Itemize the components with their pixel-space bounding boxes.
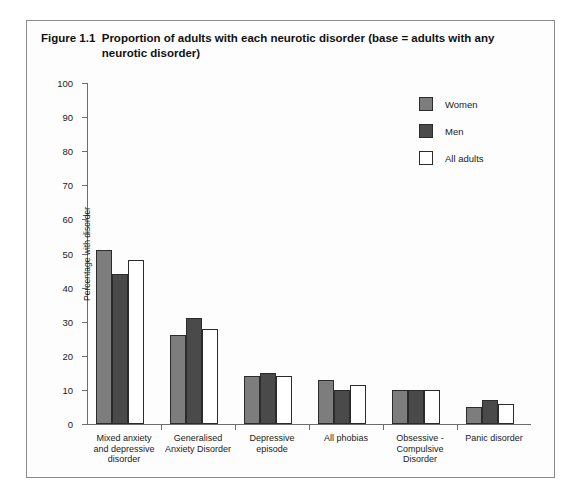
category-label-line: Panic disorder xyxy=(457,433,531,444)
category-label-line: episode xyxy=(235,444,309,455)
bar xyxy=(482,400,498,424)
x-axis-separator-tick xyxy=(235,424,236,430)
bar xyxy=(350,385,366,424)
y-axis-tick-label: 70 xyxy=(62,180,73,191)
bar xyxy=(112,274,128,424)
bar-group xyxy=(466,83,514,424)
y-axis-tick: 70 xyxy=(82,185,87,186)
bar xyxy=(276,376,292,424)
y-axis-tick: 30 xyxy=(82,322,87,323)
y-axis-tick-label: 0 xyxy=(68,419,73,430)
y-axis-tick-label: 40 xyxy=(62,282,73,293)
x-axis-separator-tick xyxy=(383,424,384,430)
bar xyxy=(96,250,112,424)
x-axis-separator-tick xyxy=(309,424,310,430)
plot-area: Percentage with disorder 010203040506070… xyxy=(87,83,531,424)
y-axis-tick-label: 60 xyxy=(62,214,73,225)
y-axis-tick: 0 xyxy=(82,424,87,425)
category-label-line: Obsessive - xyxy=(383,433,457,444)
bar xyxy=(244,376,260,424)
category-label-line: Disorder xyxy=(383,454,457,465)
category-label-line: and depressive xyxy=(87,444,161,455)
y-axis-tick-label: 80 xyxy=(62,146,73,157)
y-axis-tick: 60 xyxy=(82,219,87,220)
x-axis-category-label: Obsessive -CompulsiveDisorder xyxy=(383,433,457,465)
bar xyxy=(170,335,186,424)
y-axis-tick: 10 xyxy=(82,390,87,391)
bar-group xyxy=(318,83,366,424)
x-axis-separator-tick xyxy=(457,424,458,430)
x-axis-category-label: Depressiveepisode xyxy=(235,433,309,454)
bar xyxy=(128,260,144,424)
y-axis-tick-label: 50 xyxy=(62,248,73,259)
bar xyxy=(334,390,350,424)
y-axis-tick-label: 100 xyxy=(57,78,73,89)
category-label-line: All phobias xyxy=(309,433,383,444)
y-axis-tick: 40 xyxy=(82,288,87,289)
x-axis-category-label: All phobias xyxy=(309,433,383,444)
bar xyxy=(202,329,218,424)
bar-group xyxy=(244,83,292,424)
category-label-line: Anxiety Disorder xyxy=(161,444,235,455)
x-axis-separator-tick xyxy=(161,424,162,430)
figure-number: Figure 1.1 xyxy=(41,31,95,46)
x-axis-category-label: GeneralisedAnxiety Disorder xyxy=(161,433,235,454)
bar xyxy=(186,318,202,424)
bar xyxy=(466,407,482,424)
y-axis-tick: 80 xyxy=(82,151,87,152)
bar xyxy=(260,373,276,424)
y-axis-tick: 90 xyxy=(82,117,87,118)
y-axis-tick: 50 xyxy=(82,254,87,255)
category-label-line: Depressive xyxy=(235,433,309,444)
y-axis-tick-label: 10 xyxy=(62,384,73,395)
figure-frame: Figure 1.1 Proportion of adults with eac… xyxy=(26,20,555,478)
bar-group xyxy=(96,83,144,424)
bar xyxy=(408,390,424,424)
figure-title-text: Proportion of adults with each neurotic … xyxy=(102,31,520,61)
x-axis-category-label: Panic disorder xyxy=(457,433,531,444)
y-axis-tick-label: 90 xyxy=(62,112,73,123)
bar xyxy=(424,390,440,424)
bar xyxy=(318,380,334,424)
x-axis-category-label: Mixed anxietyand depressivedisorder xyxy=(87,433,161,465)
category-label-line: disorder xyxy=(87,454,161,465)
category-label-line: Compulsive xyxy=(383,444,457,455)
figure-title: Figure 1.1 Proportion of adults with eac… xyxy=(41,31,541,61)
y-axis-tick-label: 20 xyxy=(62,350,73,361)
category-label-line: Mixed anxiety xyxy=(87,433,161,444)
y-axis-tick: 100 xyxy=(82,83,87,84)
bar xyxy=(392,390,408,424)
bar-group xyxy=(170,83,218,424)
category-label-line: Generalised xyxy=(161,433,235,444)
y-axis-tick-label: 30 xyxy=(62,316,73,327)
bar xyxy=(498,404,514,424)
y-axis-tick: 20 xyxy=(82,356,87,357)
bar-group xyxy=(392,83,440,424)
